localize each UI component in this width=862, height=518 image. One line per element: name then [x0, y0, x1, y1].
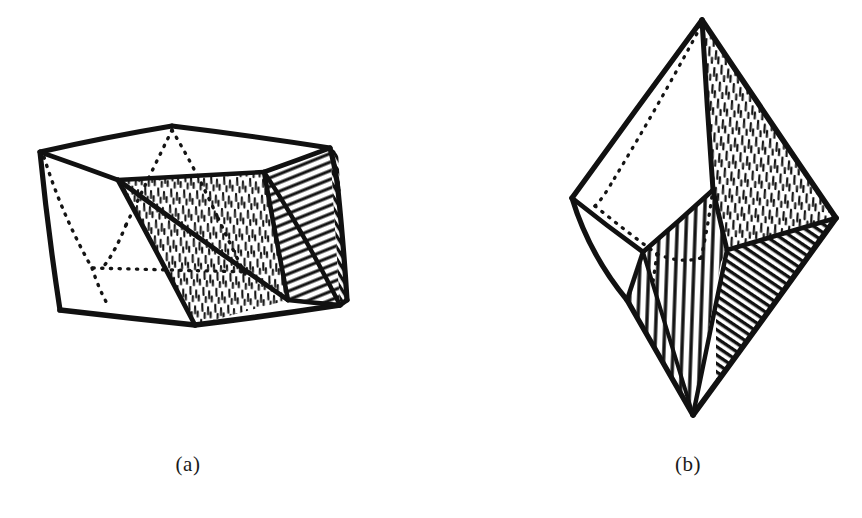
figure-sheet: (a): [0, 0, 862, 518]
polyhedron-a-drawing: [0, 0, 431, 518]
figure-caption-a: (a): [128, 452, 248, 477]
figure-caption-b: (b): [628, 452, 748, 477]
polyhedron-b-drawing: [431, 0, 862, 518]
figure-panel-b: (b): [431, 0, 862, 518]
polyhedron-b-faces: [572, 10, 851, 425]
figure-panel-a: (a): [0, 0, 431, 518]
